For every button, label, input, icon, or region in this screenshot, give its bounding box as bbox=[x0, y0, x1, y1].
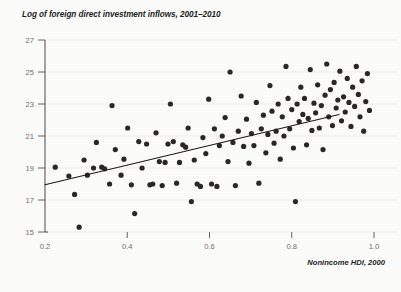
data-point bbox=[91, 165, 96, 170]
data-point bbox=[285, 96, 290, 101]
data-point bbox=[233, 183, 238, 188]
data-point bbox=[352, 104, 357, 109]
data-point bbox=[118, 173, 123, 178]
data-point bbox=[293, 199, 298, 204]
data-point bbox=[300, 112, 305, 117]
data-point bbox=[276, 101, 281, 106]
data-point bbox=[109, 103, 114, 108]
data-point bbox=[263, 150, 268, 155]
data-point bbox=[183, 145, 188, 150]
y-tick-label: 15 bbox=[14, 228, 34, 237]
data-point bbox=[302, 96, 307, 101]
data-point bbox=[320, 147, 325, 152]
data-point bbox=[132, 211, 137, 216]
data-point bbox=[306, 116, 311, 121]
data-point bbox=[192, 157, 197, 162]
data-point bbox=[225, 159, 230, 164]
x-tick-marks bbox=[127, 232, 374, 238]
data-point bbox=[311, 101, 316, 106]
x-tick-label: 1.0 bbox=[362, 242, 386, 251]
data-point bbox=[298, 85, 303, 90]
data-point bbox=[220, 133, 225, 138]
data-point bbox=[341, 94, 346, 99]
data-point bbox=[200, 135, 205, 140]
y-tick-label: 19 bbox=[14, 164, 34, 173]
data-point bbox=[271, 141, 276, 146]
data-point bbox=[77, 225, 82, 230]
data-point bbox=[304, 142, 309, 147]
data-point bbox=[356, 92, 361, 97]
data-point bbox=[267, 83, 272, 88]
data-point bbox=[359, 78, 364, 83]
data-point bbox=[168, 101, 173, 106]
x-tick-label: 0.2 bbox=[33, 242, 57, 251]
data-point bbox=[330, 123, 335, 128]
data-point bbox=[322, 93, 327, 98]
data-point bbox=[348, 124, 353, 129]
data-point bbox=[227, 69, 232, 74]
data-point bbox=[189, 199, 194, 204]
data-point bbox=[332, 80, 337, 85]
data-point bbox=[337, 69, 342, 74]
y-tick-marks bbox=[38, 40, 45, 232]
data-point bbox=[363, 99, 368, 104]
data-point bbox=[256, 181, 261, 186]
data-point bbox=[308, 67, 313, 72]
data-point bbox=[150, 181, 155, 186]
data-point bbox=[153, 130, 158, 135]
data-point bbox=[334, 105, 339, 110]
data-point bbox=[186, 125, 191, 130]
data-point bbox=[295, 101, 300, 106]
data-point bbox=[157, 159, 162, 164]
data-point bbox=[265, 132, 270, 137]
data-point bbox=[361, 129, 366, 134]
data-point bbox=[113, 147, 118, 152]
data-point bbox=[66, 173, 71, 178]
data-point bbox=[261, 113, 266, 118]
data-point bbox=[281, 133, 286, 138]
data-point bbox=[324, 61, 329, 66]
data-point bbox=[365, 71, 370, 76]
x-axis-title: Nonincome HDI, 2000 bbox=[307, 258, 385, 267]
data-point bbox=[350, 85, 355, 90]
data-point bbox=[94, 140, 99, 145]
x-tick-label: 0.4 bbox=[115, 242, 139, 251]
data-point bbox=[125, 125, 130, 130]
data-point bbox=[346, 100, 351, 105]
data-point bbox=[160, 183, 165, 188]
data-point bbox=[171, 139, 176, 144]
data-point bbox=[291, 145, 296, 150]
data-point bbox=[315, 82, 320, 87]
data-point bbox=[283, 64, 288, 69]
data-point bbox=[203, 151, 208, 156]
y-tick-label: 21 bbox=[14, 132, 34, 141]
data-point bbox=[335, 97, 340, 102]
data-point bbox=[269, 109, 274, 114]
data-point bbox=[244, 117, 249, 122]
data-point bbox=[144, 141, 149, 146]
data-point bbox=[254, 100, 259, 105]
data-point bbox=[162, 160, 167, 165]
data-point bbox=[339, 118, 344, 123]
data-point bbox=[72, 192, 77, 197]
chart-figure: Log of foreign direct investment inflows… bbox=[0, 0, 401, 292]
data-point bbox=[53, 165, 58, 170]
data-point bbox=[354, 64, 359, 69]
data-point bbox=[236, 129, 241, 134]
y-tick-label: 17 bbox=[14, 196, 34, 205]
data-point bbox=[251, 143, 256, 148]
data-point bbox=[129, 182, 134, 187]
data-point bbox=[165, 141, 170, 146]
y-tick-label: 23 bbox=[14, 100, 34, 109]
data-point bbox=[319, 103, 324, 108]
data-point bbox=[81, 157, 86, 162]
data-point bbox=[317, 125, 322, 130]
data-point bbox=[328, 87, 333, 92]
data-point bbox=[214, 184, 219, 189]
data-point bbox=[280, 114, 285, 119]
data-point bbox=[206, 97, 211, 102]
data-point bbox=[212, 126, 217, 131]
data-point bbox=[278, 157, 283, 162]
data-point-group bbox=[53, 61, 372, 229]
data-point bbox=[136, 139, 141, 144]
